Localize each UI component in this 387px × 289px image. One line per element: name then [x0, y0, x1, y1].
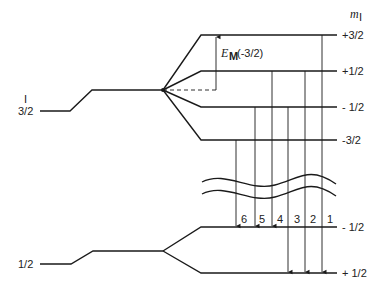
transition-label-5: 5 [259, 213, 265, 225]
level-upper-2: - 1/2 [342, 101, 364, 113]
axis-label-m: m [350, 7, 359, 21]
upper-state-branch [40, 35, 337, 140]
transition-label-1: 1 [327, 213, 333, 225]
transition-label-6: 6 [241, 213, 247, 225]
axis-label-sub: I [359, 11, 362, 23]
lower-state-branch [40, 227, 337, 273]
energy-argument: (-3/2) [237, 47, 263, 59]
level-upper-1: +1/2 [342, 65, 364, 77]
energy-level-diagram: I 3/2 1/2 m I +3/2 +1/2 - 1/2 -3/2 - 1/2… [0, 0, 387, 289]
label-I: I [24, 93, 27, 105]
transition-label-3: 3 [294, 213, 300, 225]
energy-symbol: E [220, 46, 229, 60]
transition-label-2: 2 [310, 213, 316, 225]
label-lower-spin: 1/2 [18, 258, 33, 270]
level-lower-0: - 1/2 [342, 221, 364, 233]
axis-break [202, 175, 336, 199]
label-upper-spin: 3/2 [18, 105, 33, 117]
level-lower-1: + 1/2 [342, 267, 367, 279]
transition-label-4: 4 [277, 213, 283, 225]
level-upper-0: +3/2 [342, 29, 364, 41]
level-upper-3: -3/2 [342, 134, 361, 146]
